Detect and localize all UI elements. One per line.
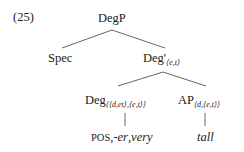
node-ap-label: AP: [178, 93, 194, 107]
node-spec: Spec: [48, 52, 72, 65]
edge-degbar-deg: [118, 72, 163, 86]
node-deg-type: ⟨⟨d,et⟩,⟨e,t⟩⟩: [106, 100, 146, 109]
node-degp: DegP: [98, 12, 126, 25]
edge-degp-degbar: [112, 30, 165, 48]
node-degbar: Deg'⟨e,t⟩: [143, 52, 180, 67]
node-deg: Deg⟨⟨d,et⟩,⟨e,t⟩⟩: [85, 94, 146, 109]
terminal-pos: POS: [91, 132, 110, 143]
node-deg-terminal: POS,-er,very: [91, 131, 153, 144]
example-number: (25): [13, 11, 34, 24]
terminal-er: -er: [113, 130, 128, 144]
terminal-very: very: [131, 130, 153, 144]
terminal-tall: tall: [197, 130, 214, 144]
edge-degp-spec: [62, 30, 112, 48]
node-degbar-label: Deg': [143, 51, 166, 65]
node-degbar-type: ⟨e,t⟩: [166, 58, 180, 67]
node-ap-terminal: tall: [197, 131, 214, 144]
example-number-text: (25): [13, 10, 34, 24]
node-spec-label: Spec: [48, 51, 72, 65]
node-ap: AP⟨d,⟨e,t⟩⟩: [178, 94, 220, 109]
node-deg-label: Deg: [85, 93, 106, 107]
node-degp-label: DegP: [98, 11, 126, 25]
edge-degbar-ap: [163, 72, 206, 86]
node-ap-type: ⟨d,⟨e,t⟩⟩: [194, 100, 220, 109]
